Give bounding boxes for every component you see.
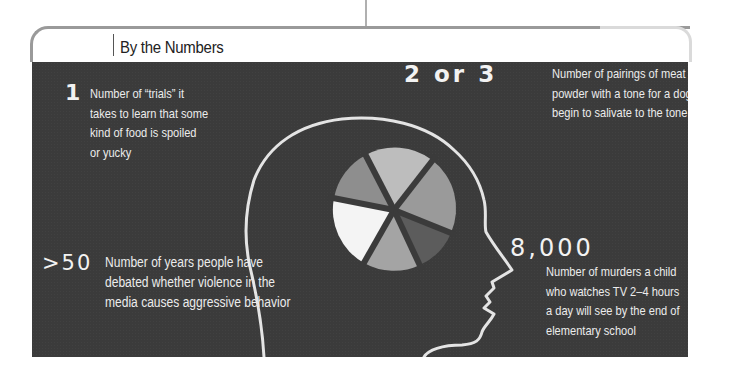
fact-2-line: Number of pairings of meat xyxy=(552,64,688,84)
fact-1-value: 1 xyxy=(65,80,82,105)
fact-4-value: 8,000 xyxy=(510,234,594,262)
fact-1-line: or yucky xyxy=(90,143,208,163)
fact-4-line: elementary school xyxy=(546,321,680,341)
fact-2-value: 2 or 3 xyxy=(404,62,497,87)
fact-4-line: Number of murders a child xyxy=(546,262,680,282)
fact-2-line: powder with a tone for a dog to xyxy=(552,84,688,104)
fact-1-line: Number of “trials” it xyxy=(90,84,208,104)
section-frame-right xyxy=(600,26,692,62)
fact-1-line: kind of food is spoiled xyxy=(90,123,208,143)
fact-2-line: begin to salivate to the tone alone xyxy=(552,103,688,123)
chalkboard-panel: 1 Number of “trials” it takes to learn t… xyxy=(32,62,688,357)
pie-chart-icon xyxy=(328,148,456,271)
top-divider-line xyxy=(365,0,367,28)
fact-4-line: a day will see by the end of xyxy=(546,301,680,321)
fact-3-line: Number of years people have xyxy=(105,252,290,272)
fact-3-value: >50 xyxy=(42,251,92,275)
fact-3-description: Number of years people have debated whet… xyxy=(105,252,290,312)
title-tick xyxy=(113,34,114,56)
fact-4-description: Number of murders a child who watches TV… xyxy=(546,262,680,340)
fact-1-description: Number of “trials” it takes to learn tha… xyxy=(90,84,208,162)
section-title: By the Numbers xyxy=(120,38,224,58)
fact-2-description: Number of pairings of meat powder with a… xyxy=(552,64,688,123)
fact-3-line: debated whether violence in the xyxy=(105,272,290,292)
fact-4-line: who watches TV 2–4 hours xyxy=(546,282,680,302)
fact-3-line: media causes aggressive behavior xyxy=(105,292,290,312)
fact-1-line: takes to learn that some xyxy=(90,104,208,124)
